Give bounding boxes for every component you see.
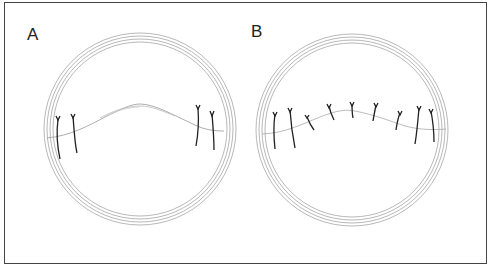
panel-b-sutures xyxy=(273,102,434,149)
diagram-canvas xyxy=(0,0,490,267)
panel-a-sutures xyxy=(56,105,214,159)
